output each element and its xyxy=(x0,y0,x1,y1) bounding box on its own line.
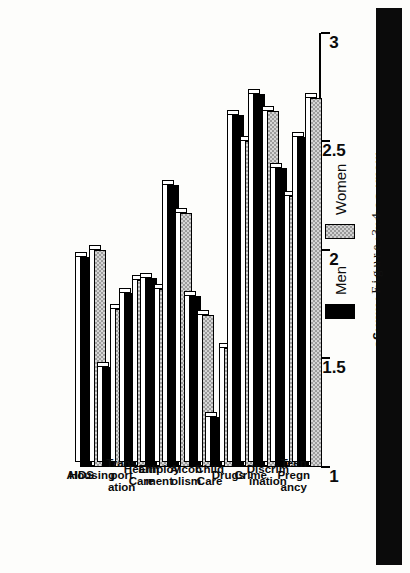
bar-end-face xyxy=(175,208,187,213)
bar-end-face xyxy=(305,93,317,98)
bar-end-face xyxy=(292,132,304,137)
bar-top-face xyxy=(219,343,224,462)
bar-end-face xyxy=(89,245,101,250)
legend-label-women: Women xyxy=(332,164,349,215)
bar-end-face xyxy=(227,110,239,115)
bar-top-face xyxy=(75,252,80,462)
legend-label-men: Men xyxy=(332,266,349,295)
bar-end-face xyxy=(262,106,274,111)
bar-top-face xyxy=(175,208,180,462)
bar-top-face xyxy=(132,275,137,462)
bar-end-face xyxy=(270,163,282,168)
bar-top-face xyxy=(119,288,124,462)
legend-item-men: Men xyxy=(325,266,355,319)
value-tick-label: 3 xyxy=(329,33,338,53)
figure-caption: Figure 3.4 xyxy=(368,172,384,332)
value-tick-label: 1 xyxy=(329,467,338,487)
bar-end-face xyxy=(119,288,131,293)
bar-top-face xyxy=(184,291,189,462)
bar-end-face xyxy=(197,310,209,315)
bar-end-face xyxy=(205,412,217,417)
bar-end-face xyxy=(248,89,260,94)
legend-swatch-men-icon xyxy=(325,304,355,319)
bar-top-face xyxy=(162,180,167,462)
category-label: Teen Pregn ancy xyxy=(278,457,311,493)
legend-swatch-women-icon xyxy=(325,224,355,239)
bar-top-face xyxy=(205,412,210,462)
bar-end-face xyxy=(184,291,196,296)
bar-end-face xyxy=(75,252,87,257)
value-tick-label: 2.5 xyxy=(322,142,346,162)
bar-top-face xyxy=(97,362,102,462)
bar-top-face xyxy=(227,110,232,462)
value-tick-label: 1.5 xyxy=(322,359,346,379)
bar-top-face xyxy=(140,273,145,462)
bar-top-face xyxy=(89,245,94,462)
bar-end-face xyxy=(162,180,174,185)
bar-top-face xyxy=(197,310,202,462)
legend-item-women: Women xyxy=(325,164,355,239)
bar-top-face xyxy=(154,284,159,462)
bar-end-face xyxy=(97,362,109,367)
bar-top-face xyxy=(110,304,115,462)
bar-end-face xyxy=(140,273,152,278)
